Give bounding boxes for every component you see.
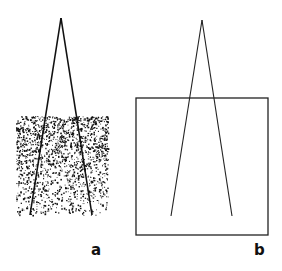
stipple-dot <box>60 179 62 181</box>
stipple-dot <box>22 128 23 129</box>
stipple-dot <box>44 155 45 156</box>
stipple-dot <box>73 130 74 131</box>
stipple-dot <box>54 149 55 150</box>
stipple-dot <box>89 159 90 160</box>
stipple-dot <box>18 207 19 208</box>
stipple-dot <box>27 140 28 142</box>
stipple-dot <box>62 170 63 171</box>
stipple-dot <box>29 166 30 167</box>
stipple-dot <box>39 130 40 131</box>
stipple-dot <box>104 160 105 161</box>
stipple-dot <box>16 183 17 184</box>
stipple-dot <box>41 212 42 213</box>
stipple-dot <box>103 191 104 192</box>
stipple-dot <box>108 169 109 170</box>
stipple-dot <box>54 123 56 125</box>
stipple-dot <box>28 179 29 180</box>
stipple-dot <box>31 144 32 145</box>
stipple-dot <box>22 117 23 118</box>
stipple-dot <box>52 157 54 158</box>
stipple-dot <box>77 196 78 197</box>
stipple-dot <box>34 158 36 159</box>
stipple-dot <box>64 124 65 125</box>
stipple-dot <box>63 157 64 158</box>
stipple-dot <box>48 151 49 152</box>
stipple-dot <box>52 134 54 135</box>
stipple-dot <box>98 203 99 204</box>
stipple-dot <box>40 135 41 136</box>
stipple-dot <box>92 170 93 171</box>
stipple-dot <box>75 179 76 180</box>
stipple-dot <box>98 117 99 118</box>
stipple-dot <box>48 159 49 160</box>
stipple-dot <box>96 164 98 165</box>
stipple-dot <box>23 179 24 180</box>
stipple-dot <box>34 150 35 151</box>
stipple-dot <box>44 186 45 188</box>
stipple-dot <box>70 187 72 189</box>
stipple-dot <box>55 194 56 195</box>
stipple-dot <box>28 150 29 151</box>
stipple-dot <box>62 161 63 163</box>
stipple-dot <box>35 148 37 149</box>
stipple-dot <box>106 135 108 137</box>
stipple-dot <box>73 122 75 124</box>
stipple-dot <box>69 211 70 212</box>
stipple-dot <box>73 133 74 134</box>
stipple-dot <box>105 158 106 159</box>
stipple-dot <box>77 173 78 174</box>
stipple-dot <box>26 192 27 193</box>
stipple-dot <box>102 165 103 166</box>
stipple-dot <box>32 144 33 145</box>
stipple-dot <box>104 121 105 122</box>
stipple-dot <box>76 157 77 158</box>
stipple-dot <box>47 182 49 183</box>
stipple-dot <box>90 192 91 193</box>
stipple-dot <box>72 139 74 141</box>
stipple-dot <box>74 137 75 138</box>
stipple-dot <box>18 148 19 150</box>
stipple-dot <box>44 190 46 191</box>
stipple-dot <box>27 149 28 150</box>
stipple-dot <box>86 138 87 139</box>
stipple-dot <box>105 163 106 164</box>
stipple-dot <box>51 135 52 136</box>
stipple-dot <box>104 176 105 177</box>
stipple-dot <box>19 215 20 216</box>
stipple-dot <box>26 198 27 199</box>
stipple-dot <box>87 139 88 140</box>
panel-a <box>16 18 109 217</box>
stipple-dot <box>57 129 58 131</box>
stipple-dot <box>61 146 62 148</box>
stipple-dot <box>26 144 27 145</box>
stipple-dot <box>97 160 98 161</box>
stipple-dot <box>85 141 87 142</box>
stipple-dot <box>107 137 108 138</box>
stipple-dot <box>86 193 87 194</box>
stipple-dot <box>59 189 60 191</box>
stipple-dot <box>78 176 79 178</box>
stipple-dot <box>26 138 28 139</box>
stipple-dot <box>26 208 27 210</box>
stipple-dot <box>94 185 95 186</box>
stipple-dot <box>79 116 80 117</box>
stipple-dot <box>97 156 98 157</box>
stipple-dot <box>88 176 89 177</box>
stipple-dot <box>67 173 68 174</box>
stipple-dot <box>81 128 82 129</box>
stipple-dot <box>53 164 54 165</box>
stipple-dot <box>95 181 96 182</box>
stipple-dot <box>102 174 103 175</box>
stipple-dot <box>108 133 109 135</box>
stipple-dot <box>27 180 28 181</box>
stipple-dot <box>25 158 26 159</box>
stipple-dot <box>17 163 18 164</box>
stipple-dot <box>80 119 81 120</box>
stipple-dot <box>48 197 50 198</box>
stipple-dot <box>70 119 72 121</box>
stipple-dot <box>107 179 108 180</box>
stipple-dot <box>105 160 107 161</box>
stipple-dot <box>45 169 46 170</box>
stipple-dot <box>61 194 62 196</box>
stipple-dot <box>101 196 102 197</box>
